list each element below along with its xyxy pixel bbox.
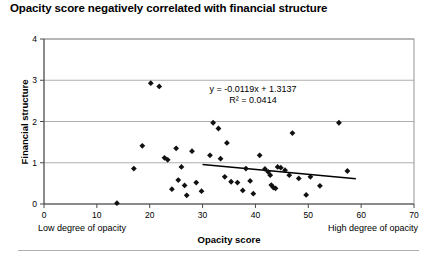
- data-point: [336, 120, 342, 126]
- y-tick-label-1: 1: [32, 158, 37, 168]
- data-point: [189, 148, 195, 154]
- data-point: [175, 177, 181, 183]
- x-axis-ticks: 010203040506070: [42, 204, 419, 220]
- bottom-divider: [18, 250, 419, 251]
- x-tick-label-30: 30: [198, 210, 208, 220]
- data-point: [235, 180, 241, 186]
- y-tick-label-0: 0: [32, 199, 37, 209]
- x-axis-low-note: Low degree of opacity: [38, 223, 127, 233]
- data-point: [250, 191, 256, 197]
- data-point: [156, 84, 162, 90]
- data-point: [222, 174, 228, 180]
- x-tick-label-40: 40: [251, 210, 261, 220]
- data-point: [243, 166, 249, 172]
- data-point: [207, 152, 213, 158]
- data-point: [345, 168, 351, 174]
- x-tick-label-20: 20: [145, 210, 155, 220]
- data-point: [247, 178, 253, 184]
- x-axis-title: Opacity score: [198, 234, 261, 245]
- data-point: [257, 152, 263, 158]
- data-point: [216, 126, 222, 132]
- data-point: [218, 156, 224, 162]
- scatter-plot-canvas: 010203040506070 01234 y = -0.0119x + 1.3…: [0, 0, 437, 260]
- data-point: [184, 192, 190, 198]
- x-tick-label-10: 10: [92, 210, 102, 220]
- data-point: [228, 179, 234, 185]
- data-point: [199, 188, 205, 194]
- data-point: [139, 143, 145, 149]
- x-axis-high-note: High degree of opacity: [328, 223, 419, 233]
- data-point: [303, 192, 309, 198]
- x-tick-label-0: 0: [42, 210, 47, 220]
- y-tick-label-4: 4: [32, 34, 37, 44]
- data-point: [169, 186, 175, 192]
- y-tick-label-3: 3: [32, 75, 37, 85]
- data-point: [210, 120, 216, 126]
- data-point: [240, 187, 246, 193]
- x-tick-label-50: 50: [304, 210, 314, 220]
- data-point: [193, 180, 199, 186]
- data-point: [296, 176, 302, 182]
- regression-equation-label: y = -0.0119x + 1.3137: [210, 84, 297, 94]
- data-point: [290, 130, 296, 136]
- data-point: [224, 140, 230, 146]
- x-tick-label-60: 60: [356, 210, 366, 220]
- data-point: [317, 183, 323, 189]
- y-axis-ticks: 01234: [32, 34, 44, 209]
- y-tick-label-2: 2: [32, 117, 37, 127]
- r-squared-label: R² = 0.0414: [229, 95, 276, 105]
- chart-figure: Opacity score negatively correlated with…: [0, 0, 437, 260]
- data-point: [182, 183, 188, 189]
- data-point: [179, 164, 185, 170]
- data-point: [131, 166, 137, 172]
- data-point: [148, 80, 154, 86]
- y-axis-title: Financial structure: [19, 80, 30, 165]
- x-tick-label-70: 70: [409, 210, 419, 220]
- data-point: [173, 145, 179, 151]
- data-point: [114, 200, 120, 206]
